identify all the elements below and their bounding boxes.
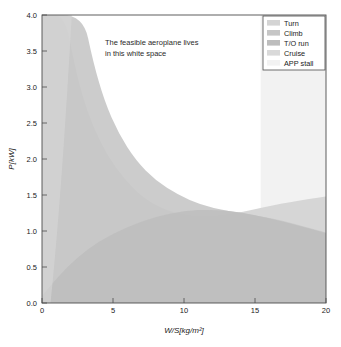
x-axis-title: W/S[kg/m²] — [164, 326, 204, 335]
y-tick-label-7: 3.5 — [27, 47, 37, 56]
legend-label-climb[interactable]: Climb — [284, 29, 303, 38]
y-tick-label-8: 4.0 — [27, 11, 37, 20]
legend-label-turn[interactable]: Turn — [284, 19, 299, 28]
y-tick-label-6: 3.0 — [27, 83, 37, 92]
y-axis-title: P[kW] — [7, 148, 16, 170]
legend-swatch-app-stall — [267, 60, 280, 66]
legend-swatch-cruise — [267, 50, 280, 56]
y-tick-label-1: 0.5 — [27, 263, 37, 272]
legend-swatch-climb — [267, 30, 280, 36]
y-tick-label-2: 1.0 — [27, 227, 37, 236]
x-tick-label-1: 5 — [111, 306, 115, 315]
legend-label-app-stall[interactable]: APP stall — [284, 59, 314, 68]
y-tick-label-5: 2.5 — [27, 119, 37, 128]
x-tick-label-3: 15 — [251, 306, 259, 315]
annotation-line-1: The feasible aeroplane lives — [105, 38, 199, 47]
y-tick-label-4: 2.0 — [27, 155, 37, 164]
x-tick-label-2: 10 — [180, 306, 188, 315]
legend-label-to-run[interactable]: T/O run — [284, 39, 309, 48]
x-tick-label-4: 20 — [322, 306, 330, 315]
legend[interactable]: Turn Climb T/O run Cruise APP stall — [263, 16, 325, 70]
legend-swatch-turn — [267, 20, 280, 26]
y-tick-label-3: 1.5 — [27, 191, 37, 200]
x-tick-label-0: 0 — [40, 306, 44, 315]
figure-container: 0 5 10 15 20 0.0 0.5 1.0 1.5 2.0 2.5 3.0… — [0, 0, 341, 347]
y-tick-label-0: 0.0 — [27, 299, 37, 308]
legend-swatch-to-run — [267, 40, 280, 46]
chart-svg: 0 5 10 15 20 0.0 0.5 1.0 1.5 2.0 2.5 3.0… — [0, 0, 341, 347]
legend-label-cruise[interactable]: Cruise — [284, 49, 305, 58]
annotation-line-2: in this white space — [105, 49, 166, 58]
